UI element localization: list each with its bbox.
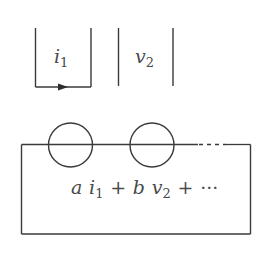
diagram-canvas: i1 v2 a i1 + b v2 + ··· xyxy=(0,0,264,255)
linear-combination-expression: a i1 + b v2 + ··· xyxy=(71,176,218,202)
current-label: i1 xyxy=(54,45,68,70)
voltage-probe: v2 xyxy=(119,28,174,86)
voltage-label: v2 xyxy=(135,45,154,70)
current-arrow-icon xyxy=(58,84,68,91)
current-probe: i1 xyxy=(36,28,92,91)
network-box: a i1 + b v2 + ··· xyxy=(22,123,251,234)
